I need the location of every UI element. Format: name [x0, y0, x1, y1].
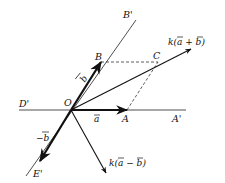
vector-label-k-sum: k(a + b) — [168, 37, 205, 47]
label-a-prime: A' — [171, 113, 181, 124]
vector-label-k-diff: k(a − b) — [109, 158, 146, 168]
label-o: O — [64, 97, 72, 108]
vector-diagram: B' B C O D' A A' E' b −b a k(a + b) k(a … — [0, 0, 225, 183]
vector-k-diff-arrow — [71, 110, 106, 173]
svg-text:−b: −b — [36, 133, 50, 143]
vector-label-a: a — [94, 114, 100, 124]
label-a: A — [121, 113, 129, 124]
label-d-prime: D' — [18, 98, 29, 109]
svg-text:k(a + b): k(a + b) — [168, 37, 205, 47]
oblique-line-e-b — [26, 20, 136, 176]
label-c: C — [153, 50, 161, 61]
label-e-prime: E' — [32, 168, 43, 179]
vector-label-b: b — [75, 72, 89, 83]
label-b: B — [94, 51, 102, 62]
dashed-line-a-c — [127, 62, 158, 110]
svg-text:a: a — [94, 114, 99, 124]
vector-label-neg-b: −b — [36, 132, 50, 143]
svg-text:k(a − b): k(a − b) — [109, 158, 146, 168]
label-b-prime: B' — [122, 9, 133, 20]
